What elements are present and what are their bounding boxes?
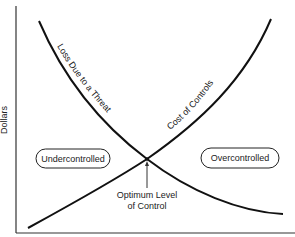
cost-curve-label: Cost of Controls: [165, 77, 216, 131]
optimum-label-line1: Optimum Level: [117, 190, 178, 200]
optimum-label-line2: of Control: [127, 201, 166, 211]
loss-curve-label: Loss Due to a Threat: [55, 42, 113, 115]
optimum-point: [145, 157, 149, 161]
undercontrolled-label: Undercontrolled: [41, 154, 105, 164]
y-axis-label: Dollars: [0, 106, 9, 135]
overcontrolled-region: Overcontrolled: [201, 148, 279, 168]
overcontrolled-label: Overcontrolled: [211, 153, 270, 163]
undercontrolled-region: Undercontrolled: [36, 149, 110, 168]
arrow-head-icon: [145, 161, 149, 166]
loss-curve: [39, 21, 283, 214]
diagram-canvas: Dollars Loss Due to a Threat Cost of Con…: [0, 0, 295, 237]
